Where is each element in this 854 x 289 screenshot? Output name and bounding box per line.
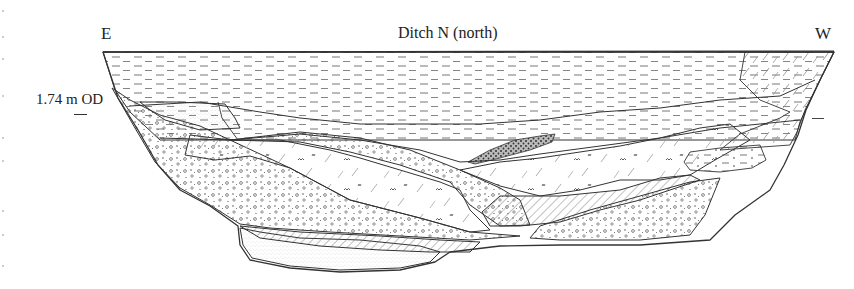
ditch-section-drawing (0, 0, 854, 289)
section-layers (103, 51, 834, 272)
